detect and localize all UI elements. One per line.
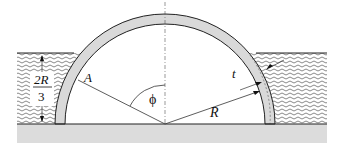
label-A: A (83, 70, 92, 85)
label-depth-num: 2R (34, 72, 49, 87)
ground (17, 124, 327, 143)
label-R: R (209, 105, 219, 120)
label-t: t (232, 66, 236, 81)
dome-diagram: 2R 3 A ϕ R t (0, 0, 342, 150)
label-depth-den: 3 (38, 89, 45, 104)
label-phi: ϕ (149, 92, 156, 107)
